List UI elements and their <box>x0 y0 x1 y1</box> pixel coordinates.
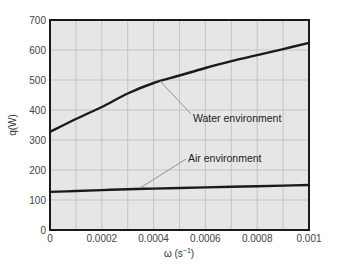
x-tick-label: 0.0008 <box>242 233 273 244</box>
y-tick-label: 100 <box>29 195 46 206</box>
x-axis-label-close: ) <box>191 248 194 259</box>
chart: 0100200300400500600700 00.00020.00040.00… <box>0 0 340 272</box>
x-axis-label-sup: −1 <box>183 247 191 254</box>
y-tick-label: 500 <box>29 75 46 86</box>
y-tick-labels: 0100200300400500600700 <box>29 15 46 236</box>
x-tick-labels: 00.00020.00040.00060.00080.001 <box>47 233 322 244</box>
x-axis-label: ω (s−1) <box>164 247 194 259</box>
annotation-water-environment: Water environment <box>193 112 281 124</box>
y-tick-label: 300 <box>29 135 46 146</box>
x-tick-label: 0.0002 <box>87 233 118 244</box>
y-tick-label: 400 <box>29 105 46 116</box>
annotation-air-environment: Air environment <box>188 152 262 164</box>
x-tick-label: 0 <box>47 233 53 244</box>
x-tick-label: 0.0006 <box>190 233 221 244</box>
y-tick-label: 600 <box>29 45 46 56</box>
x-tick-label: 0.001 <box>296 233 321 244</box>
y-tick-label: 0 <box>40 225 46 236</box>
y-axis-label: q(W) <box>7 114 18 136</box>
x-tick-label: 0.0004 <box>138 233 169 244</box>
y-tick-label: 700 <box>29 15 46 26</box>
y-tick-label: 200 <box>29 165 46 176</box>
x-axis-label-base: ω (s <box>164 248 183 259</box>
